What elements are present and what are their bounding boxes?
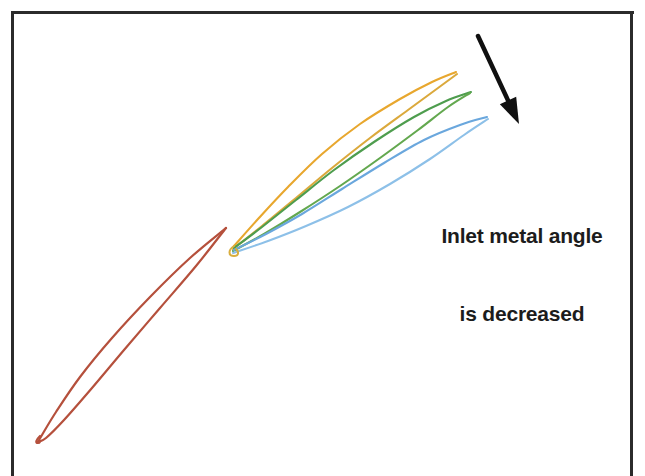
- annotation-line-1: Inlet metal angle: [404, 223, 640, 249]
- figure-root: Inlet metal angle is decreased: [0, 0, 645, 476]
- annotation-line-2: is decreased: [404, 301, 640, 327]
- annotation-inlet-metal-angle: Inlet metal angle is decreased: [404, 171, 640, 379]
